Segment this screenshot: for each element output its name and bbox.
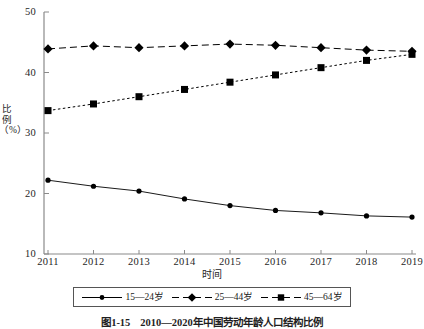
series-3 bbox=[45, 51, 416, 114]
data-point bbox=[136, 188, 141, 193]
data-point bbox=[45, 178, 50, 183]
data-point bbox=[136, 93, 143, 100]
legend-marker-circle-icon bbox=[81, 292, 123, 303]
legend-marker-square-icon bbox=[260, 292, 302, 303]
legend-marker-diamond-icon bbox=[171, 292, 213, 303]
legend-item[interactable]: 45—64岁 bbox=[260, 292, 343, 303]
x-tick-label: 2011 bbox=[37, 256, 58, 268]
x-tick-label: 2018 bbox=[356, 256, 378, 268]
data-point bbox=[180, 41, 189, 50]
data-point bbox=[409, 51, 416, 58]
data-point bbox=[362, 46, 371, 55]
legend-label: 15—24岁 bbox=[125, 292, 164, 302]
series-2 bbox=[43, 39, 416, 55]
x-tick-label: 2013 bbox=[128, 256, 150, 268]
data-point bbox=[181, 86, 188, 93]
data-point bbox=[409, 214, 414, 219]
data-point bbox=[225, 39, 234, 48]
data-point bbox=[227, 79, 234, 86]
chart-legend: 15—24岁25—44岁45—64岁 bbox=[73, 287, 351, 307]
y-tick-label: 10 bbox=[25, 249, 36, 259]
data-point bbox=[182, 196, 187, 201]
plot-area bbox=[44, 12, 416, 254]
data-point bbox=[316, 43, 325, 52]
x-tick-label: 2016 bbox=[265, 256, 287, 268]
data-point bbox=[273, 208, 278, 213]
data-point bbox=[45, 107, 52, 114]
figure-container: 5040302010 比例（%） 20112012201320142015201… bbox=[0, 0, 424, 329]
legend-item[interactable]: 25—44岁 bbox=[171, 292, 254, 303]
x-tick-label: 2014 bbox=[174, 256, 196, 268]
figure-caption: 图1-15 2010—2020年中国劳动年龄人口结构比例 bbox=[0, 316, 424, 329]
y-axis-title: 比例（%） bbox=[0, 104, 15, 136]
data-point bbox=[90, 100, 97, 107]
legend-label: 45—64岁 bbox=[304, 292, 343, 302]
data-point bbox=[43, 44, 52, 53]
x-tick-label: 2019 bbox=[401, 256, 423, 268]
x-tick-label: 2012 bbox=[83, 256, 105, 268]
data-point bbox=[272, 71, 279, 78]
data-point bbox=[227, 203, 232, 208]
x-axis-tick-labels: 201120122013201420152016201720182019 bbox=[44, 256, 416, 270]
data-point bbox=[89, 41, 98, 50]
x-tick-label: 2015 bbox=[219, 256, 241, 268]
y-tick-label: 50 bbox=[25, 7, 36, 17]
series-line bbox=[48, 180, 412, 217]
data-point bbox=[363, 57, 370, 64]
x-axis-title: 时间 bbox=[0, 269, 424, 281]
data-point bbox=[318, 64, 325, 71]
series-1 bbox=[45, 178, 414, 220]
y-tick-label: 40 bbox=[25, 68, 36, 78]
chart-svg bbox=[44, 12, 416, 254]
data-point bbox=[271, 41, 280, 50]
legend-label: 25—44岁 bbox=[215, 292, 254, 302]
y-tick-label: 20 bbox=[25, 189, 36, 199]
data-point bbox=[318, 210, 323, 215]
data-point bbox=[364, 213, 369, 218]
data-point bbox=[91, 184, 96, 189]
x-tick-label: 2017 bbox=[310, 256, 332, 268]
data-point bbox=[134, 43, 143, 52]
legend-item[interactable]: 15—24岁 bbox=[81, 292, 164, 303]
